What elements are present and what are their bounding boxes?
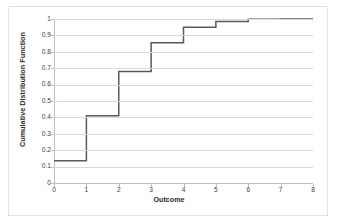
- x-axis-tick-labels: 012345678: [54, 187, 313, 199]
- y-tick-label: 0.2: [25, 147, 51, 154]
- gridline-y: [54, 101, 313, 102]
- y-tick-label: 0.8: [25, 49, 51, 56]
- gridline-y: [54, 150, 313, 151]
- y-tick-label: 0.4: [25, 114, 51, 121]
- y-tick-label: 0.5: [25, 98, 51, 105]
- y-axis-tick-labels: 00.10.20.30.40.50.60.70.80.91: [21, 19, 51, 183]
- chart-container: Cumulative Distribution Function Outcome…: [8, 6, 328, 216]
- gridline-y: [54, 134, 313, 135]
- y-tick-label: 0.9: [25, 32, 51, 39]
- x-tick-label: 5: [206, 187, 226, 194]
- x-tick-label: 0: [44, 187, 64, 194]
- x-tick-label: 6: [238, 187, 258, 194]
- gridline-y: [54, 35, 313, 36]
- x-tick-label: 4: [174, 187, 194, 194]
- x-tick-label: 7: [271, 187, 291, 194]
- gridline-y: [54, 68, 313, 69]
- y-tick-label: 0.6: [25, 81, 51, 88]
- y-tick-label: 0.7: [25, 65, 51, 72]
- x-tick-label: 8: [303, 187, 323, 194]
- y-tick-label: 0.1: [25, 163, 51, 170]
- x-tick-label: 1: [76, 187, 96, 194]
- y-tick-label: 1: [25, 16, 51, 23]
- gridline-y: [54, 167, 313, 168]
- x-tick-label: 3: [141, 187, 161, 194]
- gridline-y: [54, 19, 313, 20]
- y-tick-label: 0.3: [25, 131, 51, 138]
- gridline-y: [54, 85, 313, 86]
- gridline-y: [54, 52, 313, 53]
- plot-area: [54, 19, 313, 183]
- y-tick-label: 0: [25, 180, 51, 187]
- gridline-y: [54, 117, 313, 118]
- x-tick-label: 2: [109, 187, 129, 194]
